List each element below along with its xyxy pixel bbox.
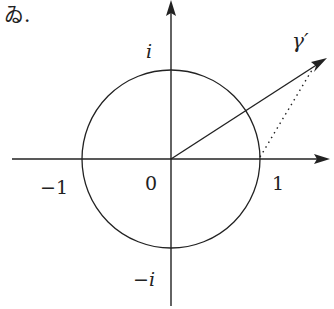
label-minus-i: −i bbox=[133, 268, 155, 290]
complex-plane-diagram: ゐ. γ′ i −1 0 1 −i bbox=[0, 0, 334, 309]
label-origin: 0 bbox=[145, 172, 157, 194]
label-minus-one: −1 bbox=[40, 176, 68, 198]
gamma-prime-label: γ′ bbox=[292, 29, 309, 53]
gamma-prime-vector bbox=[171, 64, 318, 159]
label-one: 1 bbox=[272, 172, 284, 194]
label-i: i bbox=[146, 40, 152, 62]
dotted-projection-line bbox=[260, 70, 312, 157]
gamma-vector-arrow-icon bbox=[311, 58, 327, 72]
header-fragment: ゐ. bbox=[4, 3, 30, 27]
